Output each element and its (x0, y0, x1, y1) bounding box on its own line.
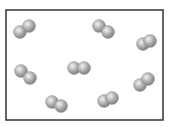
particle-diagram (0, 0, 169, 127)
atom (144, 35, 157, 48)
atom (55, 100, 68, 113)
atom (23, 20, 36, 33)
atom (78, 62, 91, 75)
atom (102, 26, 115, 39)
atom (24, 72, 37, 85)
atom (106, 92, 119, 105)
atom (142, 73, 155, 86)
